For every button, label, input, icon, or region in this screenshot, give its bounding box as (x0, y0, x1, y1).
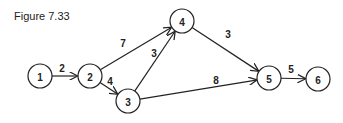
edge-3-4: 3 (135, 32, 175, 91)
edge-arrow (100, 28, 171, 70)
node-3: 3 (116, 89, 140, 113)
node-label: 5 (266, 74, 272, 85)
node-label: 1 (37, 72, 43, 83)
edge-weight-label: 3 (225, 29, 231, 40)
edge-weight-label: 4 (107, 76, 113, 87)
edge-3-5: 8 (140, 75, 256, 99)
edge-2-3: 4 (100, 76, 117, 94)
edge-weight-label: 5 (288, 64, 294, 75)
node-2: 2 (78, 64, 102, 88)
node-label: 2 (87, 72, 93, 83)
edge-arrow (140, 80, 256, 99)
node-label: 3 (125, 97, 131, 108)
node-6: 6 (306, 67, 330, 91)
node-4: 4 (170, 9, 194, 33)
node-label: 6 (315, 75, 321, 86)
edge-weight-label: 7 (120, 38, 126, 49)
edge-4-5: 3 (192, 28, 258, 71)
node-5: 5 (257, 66, 281, 90)
node-1: 1 (28, 64, 52, 88)
node-label: 4 (179, 17, 185, 28)
edge-2-4: 7 (100, 28, 171, 70)
edge-5-6: 5 (281, 64, 305, 79)
edge-weight-label: 8 (213, 75, 219, 86)
network-diagram: 2743385 123456 (0, 0, 343, 123)
edge-arrow (135, 32, 175, 91)
edge-weight-label: 3 (151, 48, 157, 59)
edge-weight-label: 2 (59, 63, 65, 74)
edge-1-2: 2 (52, 63, 77, 76)
